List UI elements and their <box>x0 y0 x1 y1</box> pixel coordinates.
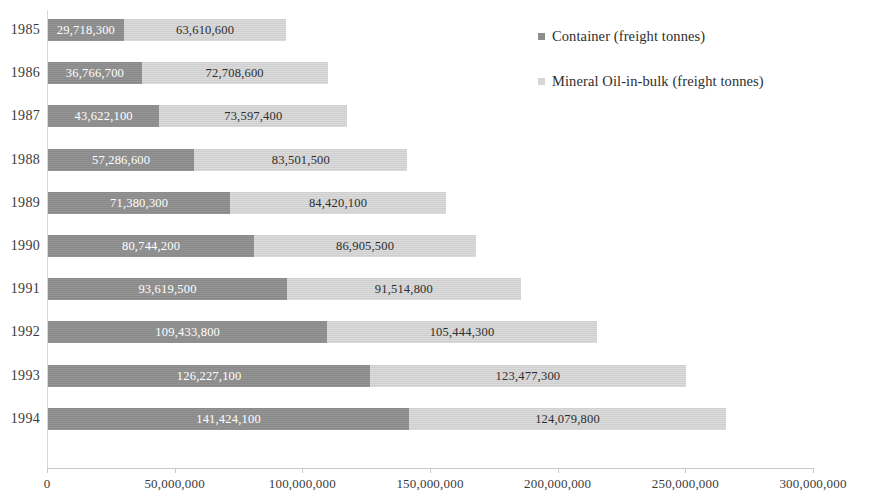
x-axis-tick-label: 200,000,000 <box>524 476 591 492</box>
bar-value-label: 72,708,600 <box>142 62 328 84</box>
bar-segment-mineral-oil[interactable]: 86,905,500 <box>254 235 476 257</box>
x-axis-tick-label: 150,000,000 <box>396 476 463 492</box>
x-axis-tick <box>47 468 48 473</box>
stacked-bar: 80,744,20086,905,500 <box>48 235 476 257</box>
bar-value-label: 63,610,600 <box>124 19 286 41</box>
bar-value-label: 93,619,500 <box>48 278 287 300</box>
category-label-1988: 1988 <box>0 149 40 171</box>
bar-value-label: 80,744,200 <box>48 235 254 257</box>
category-label-1993: 1993 <box>0 365 40 387</box>
bar-segment-mineral-oil[interactable]: 72,708,600 <box>142 62 328 84</box>
bar-segment-container[interactable]: 126,227,100 <box>48 365 370 387</box>
bar-segment-container[interactable]: 71,380,300 <box>48 192 230 214</box>
bar-value-label: 73,597,400 <box>159 105 347 127</box>
bar-value-label: 29,718,300 <box>48 19 124 41</box>
bar-value-label: 57,286,600 <box>48 149 194 171</box>
legend-item-mineral-oil[interactable]: Mineral Oil-in-bulk (freight tonnes) <box>538 73 764 90</box>
square-marker-icon <box>538 78 545 85</box>
bar-segment-container[interactable]: 36,766,700 <box>48 62 142 84</box>
category-label-1994: 1994 <box>0 408 40 430</box>
bar-value-label: 91,514,800 <box>287 278 521 300</box>
category-label-1989: 1989 <box>0 192 40 214</box>
legend-item-container[interactable]: Container (freight tonnes) <box>538 28 705 45</box>
category-label-1991: 1991 <box>0 278 40 300</box>
bar-value-label: 105,444,300 <box>327 321 596 343</box>
category-label-1985: 1985 <box>0 19 40 41</box>
stacked-bar: 71,380,30084,420,100 <box>48 192 446 214</box>
bar-value-label: 84,420,100 <box>230 192 446 214</box>
category-label-1986: 1986 <box>0 62 40 84</box>
bar-segment-mineral-oil[interactable]: 123,477,300 <box>370 365 685 387</box>
x-axis-tick-label: 0 <box>44 476 51 492</box>
stacked-bar: 93,619,50091,514,800 <box>48 278 521 300</box>
bar-value-label: 83,501,500 <box>194 149 407 171</box>
bar-segment-mineral-oil[interactable]: 63,610,600 <box>124 19 286 41</box>
bar-segment-container[interactable]: 93,619,500 <box>48 278 287 300</box>
x-axis-tick <box>558 468 559 473</box>
x-axis-tick-label: 50,000,000 <box>144 476 205 492</box>
square-marker-icon <box>538 33 545 40</box>
bar-segment-mineral-oil[interactable]: 73,597,400 <box>159 105 347 127</box>
chart-root: 198529,718,30063,610,600198636,766,70072… <box>0 0 895 501</box>
bar-value-label: 86,905,500 <box>254 235 476 257</box>
stacked-bar: 29,718,30063,610,600 <box>48 19 286 41</box>
stacked-bar: 36,766,70072,708,600 <box>48 62 328 84</box>
category-label-1987: 1987 <box>0 105 40 127</box>
category-label-1992: 1992 <box>0 321 40 343</box>
x-axis-tick <box>175 468 176 473</box>
bar-value-label: 124,079,800 <box>409 408 726 430</box>
x-axis-tick <box>685 468 686 473</box>
bar-segment-mineral-oil[interactable]: 84,420,100 <box>230 192 446 214</box>
x-axis-tick <box>302 468 303 473</box>
x-axis-tick-label: 300,000,000 <box>779 476 846 492</box>
bar-value-label: 43,622,100 <box>48 105 159 127</box>
bar-segment-mineral-oil[interactable]: 91,514,800 <box>287 278 521 300</box>
bar-value-label: 36,766,700 <box>48 62 142 84</box>
legend-item-label: Mineral Oil-in-bulk (freight tonnes) <box>552 73 764 90</box>
bar-value-label: 141,424,100 <box>48 408 409 430</box>
bar-value-label: 71,380,300 <box>48 192 230 214</box>
x-axis-tick-label: 100,000,000 <box>269 476 336 492</box>
stacked-bar: 57,286,60083,501,500 <box>48 149 407 171</box>
stacked-bar: 126,227,100123,477,300 <box>48 365 686 387</box>
stacked-bar: 109,433,800105,444,300 <box>48 321 597 343</box>
bar-value-label: 123,477,300 <box>370 365 685 387</box>
bar-value-label: 109,433,800 <box>48 321 327 343</box>
bar-segment-mineral-oil[interactable]: 105,444,300 <box>327 321 596 343</box>
category-label-1990: 1990 <box>0 235 40 257</box>
bar-segment-container[interactable]: 43,622,100 <box>48 105 159 127</box>
x-axis-tick <box>430 468 431 473</box>
x-axis-tick-label: 250,000,000 <box>652 476 719 492</box>
bar-segment-container[interactable]: 57,286,600 <box>48 149 194 171</box>
bar-segment-container[interactable]: 141,424,100 <box>48 408 409 430</box>
bar-segment-container[interactable]: 80,744,200 <box>48 235 254 257</box>
x-axis-tick <box>813 468 814 473</box>
stacked-bar: 43,622,10073,597,400 <box>48 105 347 127</box>
stacked-bar: 141,424,100124,079,800 <box>48 408 726 430</box>
bar-segment-container[interactable]: 109,433,800 <box>48 321 327 343</box>
plot-area: 198529,718,30063,610,600198636,766,70072… <box>0 0 895 501</box>
bar-segment-mineral-oil[interactable]: 124,079,800 <box>409 408 726 430</box>
bar-value-label: 126,227,100 <box>48 365 370 387</box>
bar-segment-container[interactable]: 29,718,300 <box>48 19 124 41</box>
bar-segment-mineral-oil[interactable]: 83,501,500 <box>194 149 407 171</box>
legend-item-label: Container (freight tonnes) <box>552 28 705 45</box>
